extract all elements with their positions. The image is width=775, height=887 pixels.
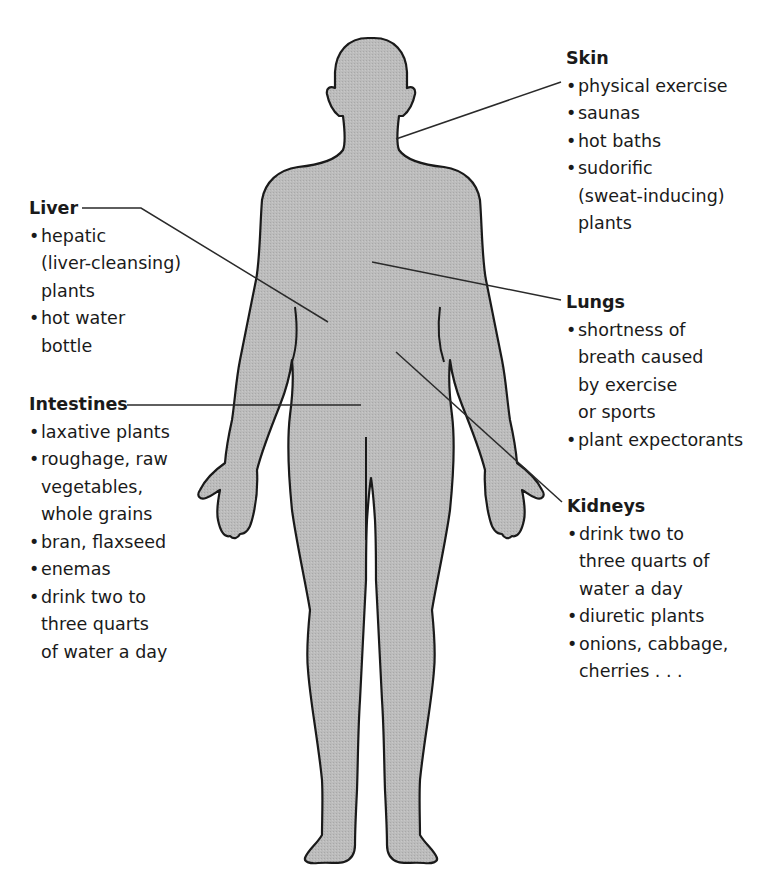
list-item: onions, cabbage, cherries . . . [567,631,728,686]
list-item: drink two to three quarts of water a day [567,521,728,604]
list-item: enemas [29,556,170,584]
label-kidneys: Kidneys drink two to three quarts of wat… [567,493,728,686]
list-item: roughage, raw vegetables, whole grains [29,446,170,529]
body-silhouette [198,38,543,863]
list-item: physical exercise [566,73,728,101]
intestines-remedies-list: laxative plants roughage, raw vegetables… [29,419,170,667]
list-item: hot water bottle [29,305,181,360]
label-skin: Skin physical exercise saunas hot baths … [566,45,728,238]
liver-heading: Liver [29,195,181,223]
leader-line-skin [396,82,561,139]
lungs-heading: Lungs [566,289,743,317]
list-item: drink two to three quarts of water a day [29,584,170,667]
list-item: laxative plants [29,419,170,447]
kidneys-heading: Kidneys [567,493,728,521]
list-item: bran, flaxseed [29,529,170,557]
skin-heading: Skin [566,45,728,73]
list-item: saunas [566,100,728,128]
list-item: diuretic plants [567,603,728,631]
label-intestines: Intestines laxative plants roughage, raw… [29,391,170,666]
list-item: hepatic (liver-cleansing) plants [29,223,181,306]
skin-remedies-list: physical exercise saunas hot baths sudor… [566,73,728,238]
list-item: shortness of breath caused by exercise o… [566,317,743,427]
list-item: plant expectorants [566,427,743,455]
kidneys-remedies-list: drink two to three quarts of water a day… [567,521,728,686]
list-item: hot baths [566,128,728,156]
list-item: sudorific (sweat-inducing) plants [566,155,728,238]
label-liver: Liver hepatic (liver-cleansing) plants h… [29,195,181,360]
lungs-remedies-list: shortness of breath caused by exercise o… [566,317,743,455]
intestines-heading: Intestines [29,391,170,419]
label-lungs: Lungs shortness of breath caused by exer… [566,289,743,454]
liver-remedies-list: hepatic (liver-cleansing) plants hot wat… [29,223,181,361]
